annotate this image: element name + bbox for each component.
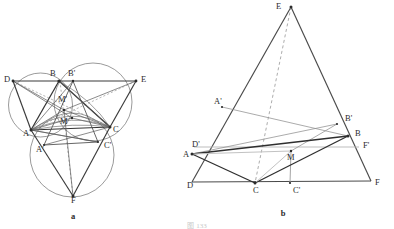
- cevian-A-Cp: [31, 130, 98, 142]
- label-b-D: D: [187, 180, 193, 190]
- figure-number-caption: 图 133: [187, 222, 207, 229]
- panel-a-vertices: [12, 79, 138, 197]
- panel-a-caption: a: [71, 211, 76, 221]
- edge-Bp-Cp: [73, 81, 98, 142]
- label-a-M: M: [60, 116, 68, 126]
- label-a-Cp: C': [104, 140, 112, 150]
- label-b-M: M: [287, 152, 295, 162]
- vertex-B: [57, 79, 60, 82]
- vertex-A: [30, 129, 33, 132]
- panel-b-outer-triangle: [192, 7, 371, 182]
- panel-b-inner-triangle: [192, 136, 348, 183]
- label-b-B: B: [355, 128, 361, 138]
- panel-a-cevians: [13, 81, 136, 196]
- edge-b-D-F: [192, 181, 371, 182]
- label-a-E: E: [141, 74, 146, 84]
- label-a-D: D: [4, 74, 10, 84]
- figure-canvas: D B B' E M' M A C A' C' F a: [0, 0, 394, 229]
- edge-b-B-C: [255, 136, 348, 183]
- label-b-A: A: [183, 149, 190, 159]
- edge-C-F: [73, 127, 110, 196]
- label-a-F: F: [71, 195, 76, 205]
- panel-b-caption: b: [281, 208, 286, 218]
- vertex-b-Cp: [289, 182, 291, 184]
- label-b-Ap: A': [214, 96, 222, 106]
- line-b-Bp-A: [192, 124, 337, 154]
- edge-b-D-E: [192, 7, 291, 182]
- vertex-Cp: [97, 141, 99, 143]
- vertex-b-A: [191, 153, 194, 156]
- line-b-Ap-B: [222, 107, 348, 136]
- label-a-Ap: A': [36, 144, 44, 154]
- vertex-E: [135, 80, 138, 83]
- dash-b-E-C: [255, 7, 291, 183]
- panel-b-vertices: [191, 6, 350, 185]
- vertex-D: [12, 80, 15, 83]
- vertex-b-E: [290, 6, 293, 9]
- vertex-Mp: [63, 109, 65, 111]
- edge-A-C: [31, 127, 110, 130]
- edge-b-E-F: [291, 7, 371, 181]
- label-a-Mp: M': [58, 94, 68, 104]
- panel-b: E A' B' B D' F' A M D C C' F b: [183, 1, 380, 218]
- geometry-figure: D B B' E M' M A C A' C' F a: [0, 0, 394, 229]
- vertex-b-Ap: [221, 106, 223, 108]
- edge-b-A-C: [192, 154, 255, 183]
- vertex-Bp: [72, 80, 74, 82]
- label-a-B: B: [50, 68, 56, 78]
- vertex-b-B: [347, 135, 350, 138]
- vertex-C: [109, 126, 112, 129]
- panel-a-outer-triangle: [13, 81, 136, 196]
- label-a-Bp: B': [68, 68, 76, 78]
- label-b-Dp: D': [192, 139, 200, 149]
- label-b-Bp: B': [345, 113, 353, 123]
- label-b-Cp: C': [293, 185, 301, 195]
- panel-a: D B B' E M' M A C A' C' F a: [4, 63, 146, 221]
- label-a-A: A: [23, 128, 30, 138]
- label-b-C: C: [253, 185, 259, 195]
- vertex-M: [71, 117, 73, 119]
- label-a-C: C: [113, 124, 119, 134]
- label-b-Fp: F': [363, 140, 370, 150]
- label-b-F: F: [375, 177, 380, 187]
- label-b-E: E: [276, 1, 281, 11]
- edge-A-F: [31, 130, 73, 196]
- vertex-b-Bp: [336, 123, 338, 125]
